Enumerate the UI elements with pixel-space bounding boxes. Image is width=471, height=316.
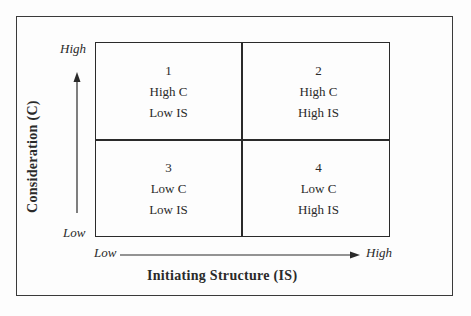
quadrant-4: 4 Low C High IS [246, 157, 391, 253]
quadrant-structure: Low IS [96, 102, 241, 123]
quadrant-consideration: High C [246, 81, 391, 102]
quadrant-number: 1 [96, 60, 241, 81]
y-axis-title: Consideration (C) [25, 100, 41, 213]
quadrant-structure: Low IS [96, 199, 241, 220]
quadrant-3: 3 Low C Low IS [96, 157, 241, 253]
quadrant-structure: High IS [246, 199, 391, 220]
y-axis-low-label: Low [63, 225, 85, 241]
quadrant-structure: High IS [246, 102, 391, 123]
quadrant-consideration: Low C [96, 178, 241, 199]
x-axis-title: Initiating Structure (IS) [147, 268, 297, 284]
quadrant-number: 3 [96, 157, 241, 178]
quadrant-2: 2 High C High IS [246, 60, 391, 156]
quadrant-1: 1 High C Low IS [96, 60, 241, 156]
quadrant-grid: 1 High C Low IS 2 High C High IS 3 Low C… [95, 42, 390, 237]
quadrant-consideration: High C [96, 81, 241, 102]
y-axis-arrowhead-icon [74, 72, 81, 82]
quadrant-number: 2 [246, 60, 391, 81]
quadrant-consideration: Low C [246, 178, 391, 199]
quadrant-number: 4 [246, 157, 391, 178]
y-axis-high-label: High [60, 41, 86, 57]
